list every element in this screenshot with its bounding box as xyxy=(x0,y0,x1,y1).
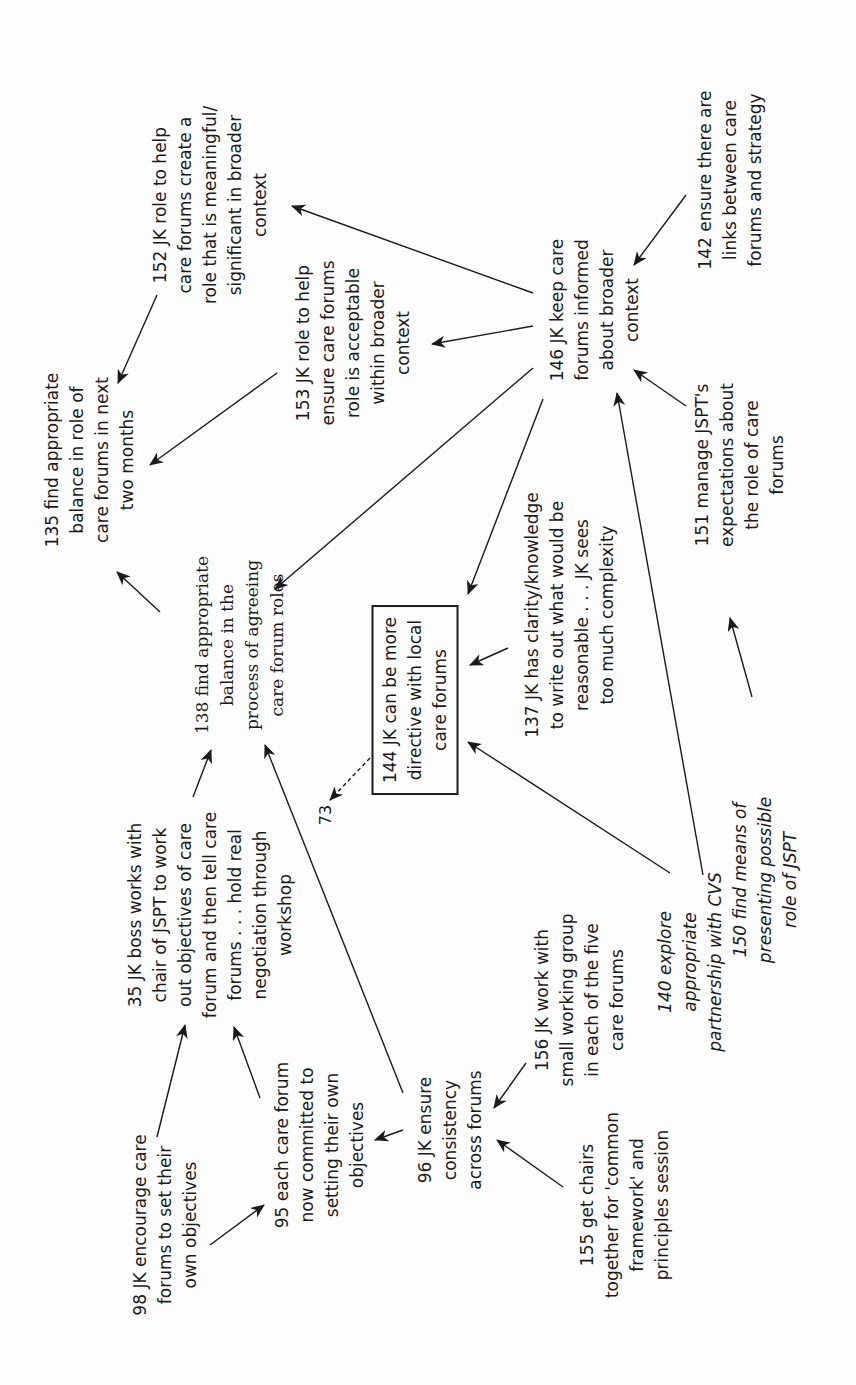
node-98: 98 JK encourage care forums to set their… xyxy=(165,1225,346,1300)
node-144: 144 JK can be more directive with local … xyxy=(415,700,605,787)
arrow-146-to-153 xyxy=(432,326,533,344)
arrow-144-to-73 xyxy=(330,758,370,800)
node-label: 135 find appropriate balance in role of … xyxy=(40,373,140,548)
node-label: 142 ensure there are links between care … xyxy=(693,90,768,269)
node-label: 155 get chairs together for 'common fram… xyxy=(575,1112,675,1298)
node-label: 152 JK role to help care forums create a… xyxy=(148,106,273,304)
node-151: 151 manage JSPT's expectations about the… xyxy=(740,465,856,565)
node-155: 155 get chairs together for 'common fram… xyxy=(625,1205,811,1305)
arrow-98-to-35 xyxy=(157,1025,185,1137)
node-label: 153 JK role to help ensure care forums r… xyxy=(291,260,416,425)
node-label: 140 explore appropriate partnership with… xyxy=(653,872,728,1051)
node-label: 150 find means of presenting possible ro… xyxy=(728,797,803,963)
node-135: 135 find appropriate balance in role of … xyxy=(90,460,265,560)
node-label: 35 JK boss works with chair of JSPT to w… xyxy=(123,812,298,1018)
arrow-35-to-138 xyxy=(193,750,211,797)
arrow-152-to-135 xyxy=(118,295,157,383)
node-96: 96 JK ensure consistency across forums xyxy=(450,1130,569,1205)
node-label: 73 xyxy=(313,805,338,825)
arrow-153-to-135 xyxy=(150,373,277,465)
node-label: 96 JK ensure consistency across forums xyxy=(413,1070,488,1189)
node-label: 95 each care forum now committed to sett… xyxy=(270,1062,370,1228)
node-label: 146 JK keep care forums informed about b… xyxy=(545,239,645,382)
node-137: 137 JK has clarity/knowledge to write ou… xyxy=(570,615,816,715)
node-label: 151 manage JSPT's expectations about the… xyxy=(690,383,790,547)
arrow-137-to-144 xyxy=(470,648,508,665)
node-150: 150 find means of presenting possible ro… xyxy=(765,880,856,955)
node-73: 73 xyxy=(325,815,345,840)
node-label: 156 JK work with small working group in … xyxy=(530,914,630,1087)
arrow-96-to-95 xyxy=(375,1130,403,1140)
node-label: 98 JK encourage care forums to set their… xyxy=(128,1134,203,1315)
arrow-138-to-135 xyxy=(117,572,160,612)
arrow-156-to-96 xyxy=(494,1063,526,1108)
node-label: 144 JK can be more directive with local … xyxy=(372,605,459,795)
cognitive-map-canvas: 152 JK role to help care forums create a… xyxy=(0,0,856,1385)
node-142: 142 ensure there are links between care … xyxy=(730,180,856,255)
node-153: 153 JK role to help ensure care forums r… xyxy=(353,343,518,468)
node-label: 138 find appropriate balance in the proc… xyxy=(190,556,290,734)
node-140: 140 explore appropriate partnership with… xyxy=(690,962,856,1037)
